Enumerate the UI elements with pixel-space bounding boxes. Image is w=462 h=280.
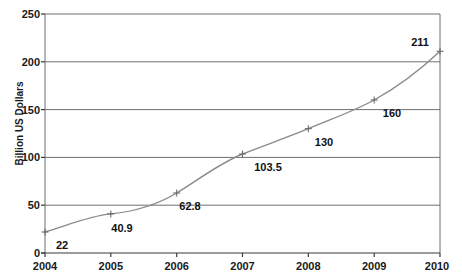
- axis-lines: [41, 14, 440, 253]
- x-tick-2006: 2006: [164, 260, 188, 272]
- plot-area: [0, 0, 462, 280]
- gridlines: [45, 14, 440, 205]
- x-tick-2009: 2009: [362, 260, 386, 272]
- marker-2005: [107, 210, 114, 217]
- marker-2004: [42, 229, 49, 236]
- x-tick-2008: 2008: [296, 260, 320, 272]
- value-label-2008: 130: [315, 136, 333, 148]
- value-label-2004: 22: [56, 239, 68, 251]
- data-point-markers: [42, 48, 444, 236]
- y-axis-ticks: [41, 14, 45, 253]
- marker-2006: [173, 190, 180, 197]
- marker-2008: [305, 125, 312, 132]
- value-label-2009: 160: [383, 107, 401, 119]
- x-tick-2005: 2005: [99, 260, 123, 272]
- x-tick-2007: 2007: [230, 260, 254, 272]
- marker-2009: [371, 97, 378, 104]
- value-label-2007: 103.5: [254, 161, 282, 173]
- x-axis-ticks: [45, 253, 440, 257]
- chart-container: Billion US Dollars 250 200 150 100 50 0: [0, 0, 462, 280]
- value-label-2010: 211: [411, 36, 429, 48]
- value-label-2006: 62.8: [179, 200, 200, 212]
- x-tick-2010: 2010: [425, 260, 449, 272]
- x-tick-2004: 2004: [33, 260, 57, 272]
- value-label-2005: 40.9: [111, 222, 132, 234]
- marker-2007: [239, 151, 246, 158]
